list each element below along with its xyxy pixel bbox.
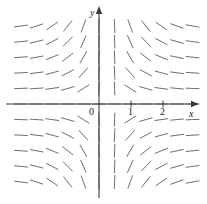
field-segment — [63, 162, 72, 171]
field-segment — [62, 132, 73, 138]
field-segment — [15, 72, 28, 73]
field-segment — [128, 36, 133, 48]
field-segment — [171, 72, 184, 74]
field-segment — [171, 119, 184, 120]
field-segment — [140, 118, 153, 122]
field-segment — [141, 162, 150, 171]
field-segment — [46, 119, 59, 121]
field-segment — [30, 56, 43, 58]
field-segment — [186, 135, 199, 136]
field-segment — [62, 70, 73, 76]
field-segment — [46, 134, 59, 137]
field-segment — [30, 180, 42, 184]
field-segment — [186, 166, 199, 168]
field-segment — [47, 178, 58, 185]
field-segment — [128, 176, 132, 188]
field-segment — [126, 68, 135, 78]
field-segment — [81, 176, 85, 188]
x-axis-arrowhead — [191, 101, 199, 107]
field-segment — [62, 118, 75, 122]
field-segment — [186, 181, 199, 183]
field-segment — [155, 88, 168, 90]
field-segment — [46, 88, 59, 90]
field-segment — [15, 150, 28, 151]
field-segment — [128, 160, 133, 172]
field-segment — [125, 85, 136, 92]
field-segment — [30, 134, 43, 136]
y-axis-arrowhead — [96, 6, 102, 14]
field-segment — [78, 85, 89, 92]
tick-label-1: 1 — [128, 107, 133, 117]
field-segment — [46, 148, 58, 153]
field-segment — [46, 55, 58, 60]
field-segment — [155, 134, 168, 137]
field-segment — [81, 36, 86, 48]
tick-label-0: 0 — [89, 107, 94, 117]
field-segment — [128, 20, 132, 32]
field-segment — [46, 71, 59, 74]
field-segment — [63, 147, 73, 155]
field-segment — [15, 181, 28, 183]
field-segment — [186, 150, 199, 151]
field-segment — [81, 20, 85, 32]
field-segment — [171, 40, 184, 44]
field-segment — [15, 135, 28, 136]
field-segment — [30, 40, 43, 43]
field-segment — [15, 166, 28, 167]
field-segment — [186, 57, 199, 58]
field-segment — [64, 21, 72, 31]
field-segment — [140, 132, 151, 138]
field-segment — [171, 180, 183, 184]
field-segment — [79, 68, 88, 78]
field-segment — [80, 52, 87, 63]
tick-label-2: 2 — [160, 107, 165, 117]
field-segment — [142, 21, 150, 31]
field-segment — [79, 130, 88, 140]
field-segment — [141, 53, 151, 61]
field-segment — [125, 116, 136, 123]
field-segment — [140, 70, 151, 76]
field-segment — [156, 163, 167, 169]
field-segment — [81, 160, 86, 172]
field-segment — [30, 72, 43, 74]
field-segment — [63, 37, 72, 46]
field-segment — [15, 41, 28, 42]
field-segment — [78, 116, 89, 123]
field-segment — [171, 134, 184, 136]
field-segment — [30, 24, 42, 28]
field-segment — [186, 72, 199, 73]
field-segment — [62, 87, 75, 91]
slope-field-figure: y x 0 1 2 — [0, 0, 207, 204]
y-axis-label: y — [90, 8, 94, 18]
field-segment — [127, 52, 134, 63]
field-segment — [171, 88, 184, 89]
field-segment — [30, 165, 43, 168]
field-segment — [30, 150, 43, 152]
field-segment — [186, 25, 199, 27]
field-segment — [186, 41, 199, 43]
field-segment — [140, 87, 153, 91]
field-segment — [15, 25, 28, 27]
field-segment — [156, 39, 167, 45]
field-segment — [141, 147, 151, 155]
field-segment — [126, 130, 135, 140]
slope-field-canvas — [0, 0, 207, 204]
x-axis-label: x — [189, 109, 193, 119]
field-segment — [46, 163, 57, 169]
field-segment — [15, 57, 28, 58]
field-segment — [64, 177, 72, 187]
field-segment — [30, 119, 43, 120]
field-segment — [155, 148, 167, 153]
field-segment — [156, 178, 167, 185]
field-segment — [127, 145, 134, 156]
field-segment — [142, 177, 150, 187]
field-segment — [171, 165, 184, 169]
field-segment — [80, 145, 87, 156]
field-segment — [171, 56, 184, 59]
field-segment — [155, 55, 167, 60]
field-segment — [30, 88, 43, 89]
field-segment — [171, 149, 184, 152]
field-segment — [171, 24, 183, 28]
field-segment — [63, 53, 73, 61]
field-segment — [156, 22, 167, 29]
